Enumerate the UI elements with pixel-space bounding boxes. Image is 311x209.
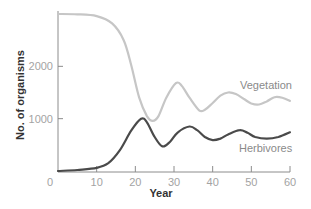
y-axis-title: No. of organisms bbox=[14, 50, 26, 140]
x-tick-label: 20 bbox=[129, 176, 141, 188]
x-tick-label: 0 bbox=[47, 176, 53, 188]
x-tick-label: 40 bbox=[207, 176, 219, 188]
vegetation-label: Vegetation bbox=[240, 79, 292, 91]
population-chart: 0102030405060 10002000 Vegetation Herbiv… bbox=[0, 0, 311, 209]
herbivores-label: Herbivores bbox=[239, 142, 293, 154]
y-tick-label: 2000 bbox=[29, 60, 53, 72]
x-tick-label: 60 bbox=[284, 176, 296, 188]
y-tick-label: 1000 bbox=[29, 113, 53, 125]
x-tick-label: 50 bbox=[245, 176, 257, 188]
axes: 0102030405060 10002000 bbox=[29, 11, 297, 188]
vegetation-line bbox=[58, 14, 290, 121]
x-tick-label: 10 bbox=[91, 176, 103, 188]
x-axis-title: Year bbox=[149, 187, 173, 199]
